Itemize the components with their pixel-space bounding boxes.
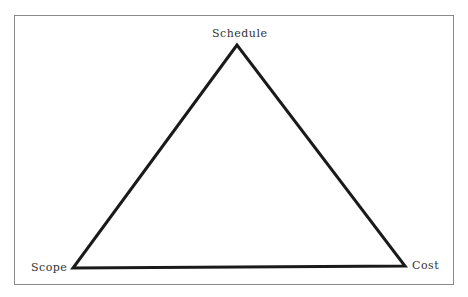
schedule-label: Schedule [212, 27, 267, 40]
project-triangle [73, 45, 405, 268]
cost-label: Cost [412, 259, 439, 272]
scope-label: Scope [31, 261, 67, 274]
triangle-diagram [0, 0, 468, 297]
